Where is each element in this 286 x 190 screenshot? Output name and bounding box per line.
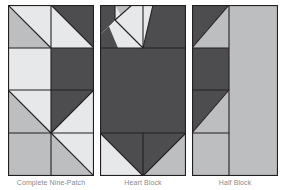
cell-r1c0-solid xyxy=(8,48,51,90)
heart-body xyxy=(100,48,186,133)
panel-three-caption: Half Block xyxy=(192,178,278,187)
caption-row: Complete Nine-Patch Heart Block Half Blo… xyxy=(0,178,286,190)
panel-three-svg xyxy=(192,5,278,176)
left-r3-solid-light xyxy=(192,133,229,176)
panel-two-svg xyxy=(100,5,186,176)
panel-one-svg xyxy=(8,5,94,176)
left-r1-solid-dark xyxy=(192,48,229,90)
panel-one-nine-patch xyxy=(8,5,94,176)
panel-two-caption: Heart Block xyxy=(100,178,186,187)
panel-two-heart-block xyxy=(100,5,186,176)
cell-r1c1-solid xyxy=(51,48,94,90)
panel-three-half-block xyxy=(192,5,278,176)
right-column-solid xyxy=(229,5,278,176)
quilt-block-figure: Complete Nine-Patch Heart Block Half Blo… xyxy=(0,0,286,190)
cell-r3c0-solid xyxy=(8,133,51,176)
panel-one-caption: Complete Nine-Patch xyxy=(8,178,94,187)
